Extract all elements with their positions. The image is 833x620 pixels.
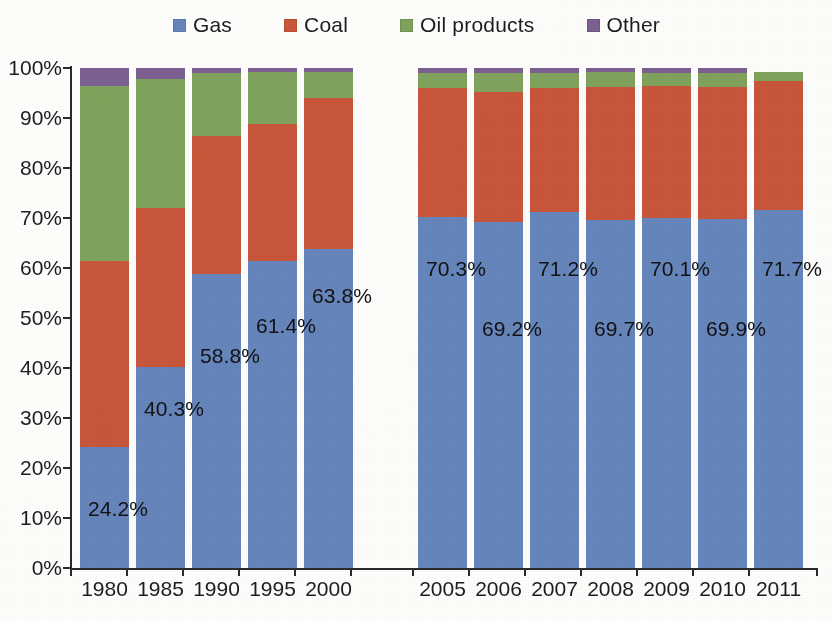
y-axis-tick-label: 10% — [6, 507, 62, 528]
bar-segment-other[interactable] — [248, 68, 297, 72]
bar-segment-oil-products[interactable] — [754, 72, 803, 81]
bar-segment-oil-products[interactable] — [642, 73, 691, 87]
x-axis-tick-label-2010: 2010 — [693, 578, 753, 599]
bar-segment-coal[interactable] — [80, 261, 129, 448]
bar-segment-oil-products[interactable] — [586, 72, 635, 87]
bar-segment-oil-products[interactable] — [698, 73, 747, 88]
bar-segment-gas[interactable] — [192, 274, 241, 568]
x-axis-tick — [580, 568, 582, 576]
y-axis-tick — [63, 67, 71, 69]
y-axis-tick — [63, 517, 71, 519]
bar-segment-oil-products[interactable] — [474, 73, 523, 92]
y-axis-tick-label: 40% — [6, 357, 62, 378]
bar-segment-other[interactable] — [80, 68, 129, 86]
bar-segment-oil-products[interactable] — [248, 72, 297, 124]
bar-segment-oil-products[interactable] — [136, 79, 185, 209]
x-axis-tick-label-1990: 1990 — [187, 578, 247, 599]
bar-column-1985[interactable] — [136, 68, 185, 568]
x-axis-tick — [692, 568, 694, 576]
bar-segment-coal[interactable] — [642, 86, 691, 218]
legend-item-label: Oil products — [420, 13, 534, 37]
bar-segment-oil-products[interactable] — [418, 73, 467, 88]
x-axis-tick-label-1980: 1980 — [75, 578, 135, 599]
bar-segment-coal[interactable] — [136, 208, 185, 367]
square-swatch-icon — [173, 19, 186, 32]
y-axis-tick — [63, 267, 71, 269]
x-axis-tick-label-2011: 2011 — [749, 578, 809, 599]
legend-item-label: Coal — [304, 13, 348, 37]
y-axis-tick — [63, 217, 71, 219]
data-label-gas-2000: 63.8% — [312, 285, 372, 306]
bar-segment-coal[interactable] — [530, 88, 579, 213]
bar-segment-other[interactable] — [586, 68, 635, 72]
chart-legend: GasCoalOil productsOther — [0, 8, 833, 42]
bar-segment-oil-products[interactable] — [192, 73, 241, 136]
bar-segment-coal[interactable] — [304, 98, 353, 249]
bar-segment-other[interactable] — [530, 68, 579, 73]
data-label-gas-2007: 71.2% — [538, 258, 598, 279]
square-swatch-icon — [400, 19, 413, 32]
x-axis-tick-label-1995: 1995 — [243, 578, 303, 599]
bar-segment-gas[interactable] — [248, 261, 297, 568]
y-axis-tick-label: 20% — [6, 457, 62, 478]
x-axis-tick — [636, 568, 638, 576]
legend-item-label: Other — [607, 13, 661, 37]
y-axis-tick — [63, 367, 71, 369]
legend-item-gas[interactable]: Gas — [173, 13, 232, 37]
bar-segment-coal[interactable] — [192, 136, 241, 275]
y-axis-tick-label: 50% — [6, 307, 62, 328]
bar-segment-other[interactable] — [474, 68, 523, 73]
x-axis-tick — [294, 568, 296, 576]
bar-column-2005[interactable] — [418, 68, 467, 568]
y-axis-tick — [63, 467, 71, 469]
legend-item-oil-products[interactable]: Oil products — [400, 13, 534, 37]
y-axis-tick — [63, 317, 71, 319]
x-axis-tick — [748, 568, 750, 576]
data-label-gas-1980: 24.2% — [88, 498, 148, 519]
legend-item-coal[interactable]: Coal — [284, 13, 348, 37]
bar-column-1990[interactable] — [192, 68, 241, 568]
y-axis-tick-label: 60% — [6, 257, 62, 278]
bar-segment-coal[interactable] — [474, 92, 523, 223]
y-axis-tick-label: 0% — [6, 557, 62, 578]
y-axis-tick-label: 100% — [6, 57, 62, 78]
bar-segment-coal[interactable] — [754, 81, 803, 210]
bar-segment-oil-products[interactable] — [530, 73, 579, 88]
square-swatch-icon — [284, 19, 297, 32]
square-swatch-icon — [587, 19, 600, 32]
y-axis-tick-label: 90% — [6, 107, 62, 128]
data-label-gas-1995: 61.4% — [256, 315, 316, 336]
x-axis-tick-label-2007: 2007 — [525, 578, 585, 599]
legend-item-other[interactable]: Other — [587, 13, 661, 37]
bar-segment-oil-products[interactable] — [80, 86, 129, 261]
legend-item-label: Gas — [193, 13, 232, 37]
data-label-gas-2011: 71.7% — [762, 258, 822, 279]
bar-segment-coal[interactable] — [418, 88, 467, 217]
x-axis-tick — [524, 568, 526, 576]
bar-column-1980[interactable] — [80, 68, 129, 568]
y-axis-tick — [63, 167, 71, 169]
x-axis-tick — [70, 568, 72, 576]
y-axis-labels: 0%10%20%30%40%50%60%70%80%90%100% — [0, 0, 62, 620]
data-label-gas-1985: 40.3% — [144, 398, 204, 419]
x-axis-tick — [816, 568, 818, 576]
x-axis-tick — [126, 568, 128, 576]
x-axis-tick-label-2000: 2000 — [299, 578, 359, 599]
y-axis-tick-label: 80% — [6, 157, 62, 178]
y-axis-tick-label: 30% — [6, 407, 62, 428]
bar-segment-other[interactable] — [418, 68, 467, 73]
y-axis-tick — [63, 417, 71, 419]
bar-segment-other[interactable] — [192, 68, 241, 73]
bar-segment-other[interactable] — [304, 68, 353, 72]
bar-segment-coal[interactable] — [698, 87, 747, 219]
data-label-gas-1990: 58.8% — [200, 345, 260, 366]
bar-segment-coal[interactable] — [248, 124, 297, 262]
bar-segment-coal[interactable] — [586, 87, 635, 220]
y-axis-tick — [63, 117, 71, 119]
bar-segment-oil-products[interactable] — [304, 72, 353, 99]
bar-segment-other[interactable] — [136, 68, 185, 79]
bar-segment-other[interactable] — [698, 68, 747, 73]
x-axis-tick-label-1985: 1985 — [131, 578, 191, 599]
bar-segment-other[interactable] — [642, 68, 691, 73]
x-axis-tick-label-2008: 2008 — [581, 578, 641, 599]
